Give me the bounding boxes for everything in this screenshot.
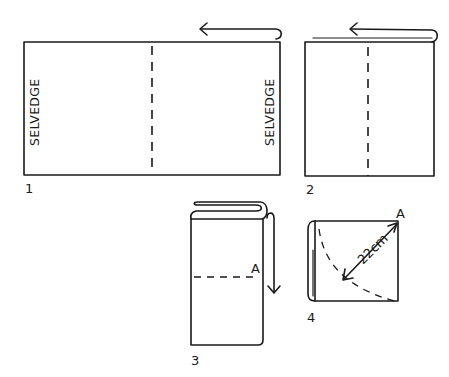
step-2-fold-arrow-icon xyxy=(351,29,437,42)
step-3-number: 3 xyxy=(191,353,199,368)
folding-diagram: SELVEDGE SELVEDGE 1 2 A 3 22cm A 4 xyxy=(0,0,449,377)
step-4-folded-edge xyxy=(308,221,315,301)
step-2-fabric-rectangle xyxy=(305,42,434,176)
step-1-left-selvedge-label: SELVEDGE xyxy=(27,79,42,146)
step-2-number: 2 xyxy=(306,182,314,197)
step-4: 22cm A 4 xyxy=(307,206,405,325)
step-1-fabric-rectangle xyxy=(24,42,280,175)
step-4-measurement-label: 22cm xyxy=(355,231,391,267)
step-3-fabric-rectangle xyxy=(191,219,263,345)
step-4-number: 4 xyxy=(307,310,315,325)
step-1-number: 1 xyxy=(25,181,33,196)
step-3-fold-arrow-icon xyxy=(267,213,274,292)
step-3-folded-layers xyxy=(191,202,267,219)
step-3-point-a-label: A xyxy=(251,261,260,276)
step-1-fold-arrow-icon xyxy=(201,29,281,39)
step-1-right-selvedge-label: SELVEDGE xyxy=(262,79,277,146)
step-3: A 3 xyxy=(191,202,280,368)
step-1: SELVEDGE SELVEDGE 1 xyxy=(24,23,281,196)
step-4-fabric-square xyxy=(315,221,398,301)
step-2: 2 xyxy=(305,23,437,197)
step-4-point-a-label: A xyxy=(396,206,405,221)
